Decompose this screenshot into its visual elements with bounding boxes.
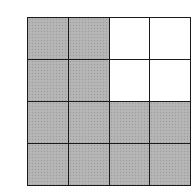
shaded-cell-r3-c4	[150, 102, 190, 143]
fraction-grid	[27, 17, 191, 186]
empty-cell-r2-c3	[110, 60, 150, 101]
empty-cell-r1-c4	[150, 18, 190, 59]
shaded-cell-r4-c3	[110, 144, 150, 185]
shaded-cell-r1-c2	[69, 18, 109, 59]
shaded-cell-r2-c2	[69, 60, 109, 101]
shaded-cell-r4-c2	[69, 144, 109, 185]
shaded-cell-r3-c2	[69, 102, 109, 143]
empty-cell-r2-c4	[150, 60, 190, 101]
shaded-cell-r3-c1	[28, 102, 68, 143]
shaded-cell-r4-c4	[150, 144, 190, 185]
shaded-cell-r4-c1	[28, 144, 68, 185]
shaded-cell-r3-c3	[110, 102, 150, 143]
shaded-cell-r1-c1	[28, 18, 68, 59]
empty-cell-r1-c3	[110, 18, 150, 59]
shaded-cell-r2-c1	[28, 60, 68, 101]
